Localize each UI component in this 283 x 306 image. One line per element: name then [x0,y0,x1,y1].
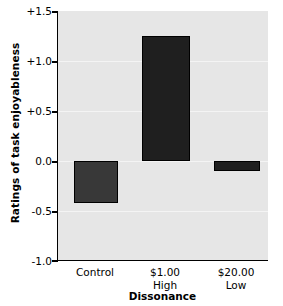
bar-one-dollar-high[interactable] [142,36,190,161]
x-tick-label-control-line1: Control [76,266,114,278]
plot-inner [58,11,268,260]
x-tick-label-one-dollar-line1: $1.00 [150,266,180,278]
y-tick-mark-6 [52,260,58,262]
y-tick-label-5: -0.5 [6,205,52,217]
gridline--0.5 [58,211,268,212]
y-tick-mark-3 [52,111,58,113]
bar-chart-figure: Ratings of task enjoyableness +1.5 +1.0 … [0,0,283,306]
x-axis-title: Dissonance [57,290,268,302]
y-tick-label-1: +1.5 [6,5,52,17]
y-tick-mark-4 [52,161,58,163]
y-tick-mark-5 [52,211,58,213]
y-tick-mark-1 [52,11,58,13]
x-tick-label-twenty-dollar-line1: $20.00 [218,266,255,278]
y-tick-label-2: +1.0 [6,55,52,67]
bar-twenty-dollar-low[interactable] [214,161,260,171]
plot-area [57,11,268,261]
x-tick-label-twenty-dollar-low: $20.00 Low [194,266,278,292]
y-tick-label-6: -1.0 [6,255,52,267]
y-tick-mark-2 [52,61,58,63]
y-tick-label-4: 0.0 [6,155,52,167]
y-tick-label-3: +0.5 [6,105,52,117]
bar-control[interactable] [74,161,118,203]
